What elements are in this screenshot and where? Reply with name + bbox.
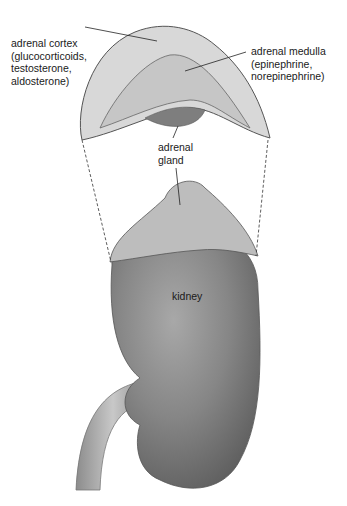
adrenal-medulla-label: adrenal medulla (epinephrine, norepineph… bbox=[251, 45, 326, 83]
adrenal-cortex-label: adrenal cortex (glucocorticoids, testost… bbox=[11, 37, 87, 87]
kidney-shape bbox=[111, 230, 260, 488]
adrenal-gland-on-kidney bbox=[110, 181, 258, 262]
kidney-label: kidney bbox=[172, 290, 202, 303]
adrenal-gland-label: adrenal gland bbox=[158, 141, 193, 166]
